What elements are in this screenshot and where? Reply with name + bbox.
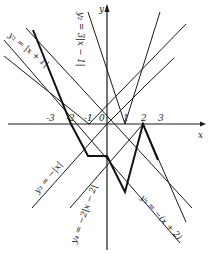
tick-label: 3 bbox=[158, 113, 164, 123]
label-y4: y₄ = −2|x − 2| bbox=[68, 183, 100, 246]
y-axis bbox=[105, 4, 110, 250]
origin-label: 0 bbox=[99, 113, 105, 123]
y-axis-label: y bbox=[98, 4, 105, 14]
label-y5: y₅ = −(x + 2) bbox=[138, 192, 184, 242]
curve-y1 bbox=[4, 24, 186, 124]
label-y3: y₃ = −|x| bbox=[31, 159, 65, 196]
tick-label: 2 bbox=[140, 113, 147, 123]
graph-figure: y x 0 -3 -2 -1 1 2 3 y₁ = |x + 1| y₂ = 3… bbox=[0, 0, 210, 257]
tick-label: -3 bbox=[46, 113, 55, 123]
label-y2: y₂ = 3|x − 1| bbox=[75, 11, 86, 67]
x-axis-label: x bbox=[198, 130, 203, 140]
